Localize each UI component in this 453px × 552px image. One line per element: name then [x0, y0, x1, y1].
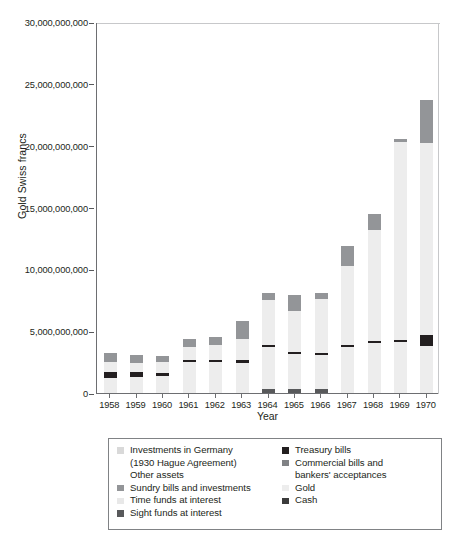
y-tick-label: 15,000,000,000: [25, 204, 88, 214]
legend-swatch-icon: [117, 485, 124, 492]
legend-item-label: Cash: [295, 494, 317, 505]
bar-1958: [104, 353, 117, 393]
x-tick-mark: [162, 394, 163, 398]
bar-segment: [209, 360, 222, 362]
bar-segment: [315, 299, 328, 353]
x-tick-mark: [294, 394, 295, 398]
bar-segment: [130, 363, 143, 372]
legend-item: Gold: [281, 482, 439, 495]
bar-1963: [236, 321, 249, 393]
bar-segment: [104, 353, 117, 362]
bar-segment: [368, 341, 381, 342]
bar-segment: [368, 214, 381, 230]
x-tick-label-1967: 1967: [337, 400, 357, 410]
bar-segment: [262, 345, 275, 347]
bar-segment: [183, 339, 196, 346]
legend-item-label: Sight funds at interest: [130, 507, 222, 518]
y-tick-label: 30,000,000,000: [25, 18, 88, 28]
bar-segment: [288, 352, 301, 354]
bar-segment: [288, 354, 301, 389]
bar-segment: [156, 376, 169, 393]
y-axis-ticks: 05,000,000,00010,000,000,00015,000,000,0…: [0, 0, 96, 430]
legend-item-label: Sundry bills and investments: [130, 482, 251, 493]
legend-item-label: Gold: [295, 482, 315, 493]
x-tick-label-1960: 1960: [152, 400, 172, 410]
legend-item-label: Other assets: [130, 469, 184, 480]
bar-segment: [288, 295, 301, 311]
x-tick-mark: [215, 394, 216, 398]
x-axis-label: Year: [96, 410, 439, 422]
x-tick-mark: [320, 394, 321, 398]
bar-segment: [368, 343, 381, 393]
x-tick-label-1963: 1963: [231, 400, 251, 410]
bar-segment: [209, 337, 222, 344]
plot-axes: [96, 23, 439, 394]
y-tick-label: 25,000,000,000: [25, 80, 88, 90]
chart-plot-area: Gold Swiss francs 05,000,000,00010,000,0…: [0, 0, 453, 430]
bar-segment: [104, 378, 117, 393]
legend-swatch-icon: [117, 510, 124, 517]
legend-item: Other assets: [116, 469, 281, 482]
x-tick-mark: [399, 394, 400, 398]
bar-1965: [288, 295, 301, 393]
legend-item-label: Investments in Germany: [130, 444, 233, 455]
x-tick-label-1958: 1958: [99, 400, 119, 410]
x-tick-label-1970: 1970: [416, 400, 436, 410]
bar-1968: [368, 214, 381, 393]
bar-segment: [209, 345, 222, 360]
bar-segment: [156, 362, 169, 373]
y-tick-mark: [89, 146, 94, 147]
bar-segment: [156, 373, 169, 375]
legend-item: Cash: [281, 494, 439, 507]
bar-1964: [262, 293, 275, 393]
y-tick-label: 0: [83, 389, 88, 399]
bar-1962: [209, 337, 222, 393]
x-tick-label-1964: 1964: [258, 400, 278, 410]
bar-segment: [315, 293, 328, 299]
legend-item: Commercial bills andbankers' acceptances: [281, 457, 439, 482]
bar-segment: [315, 389, 328, 393]
y-tick-mark: [89, 270, 94, 271]
bar-segment: [420, 346, 433, 393]
x-tick-label-1969: 1969: [389, 400, 409, 410]
x-tick-label-1966: 1966: [310, 400, 330, 410]
x-tick-mark: [241, 394, 242, 398]
bar-segment: [341, 246, 354, 266]
bar-segment: [368, 230, 381, 341]
legend-item-label-line2: (1930 Hague Agreement): [130, 457, 281, 470]
x-tick-mark: [136, 394, 137, 398]
legend-item-label: Commercial bills and: [295, 457, 383, 468]
bar-segment: [104, 372, 117, 378]
legend-swatch-icon: [282, 485, 289, 492]
bar-segment: [236, 360, 249, 362]
bar-segment: [394, 142, 407, 340]
bar-segment: [341, 266, 354, 345]
y-tick-mark: [89, 332, 94, 333]
bar-1961: [183, 339, 196, 393]
bar-segment: [156, 356, 169, 362]
bar-segment: [262, 300, 275, 345]
legend-swatch-icon: [117, 498, 124, 505]
bar-segment: [420, 143, 433, 335]
y-tick-mark: [89, 84, 94, 85]
y-tick-mark: [89, 394, 94, 395]
legend-item: Sundry bills and investments: [116, 482, 281, 495]
bar-segment: [104, 362, 117, 372]
legend-item: Sight funds at interest: [116, 507, 281, 520]
x-tick-mark: [373, 394, 374, 398]
bar-segment: [130, 377, 143, 393]
legend-swatch-icon: [117, 447, 124, 454]
figure-caption: [22, 540, 442, 552]
bar-1970: [420, 100, 433, 393]
legend-item-label-line2: bankers' acceptances: [295, 469, 439, 482]
legend-swatch-icon: [282, 447, 289, 454]
y-tick-mark: [89, 23, 94, 24]
legend-item: Time funds at interest: [116, 494, 281, 507]
x-tick-mark: [347, 394, 348, 398]
bar-segment: [236, 363, 249, 393]
bar-segment: [183, 347, 196, 361]
bar-segment: [262, 293, 275, 300]
bar-segment: [341, 345, 354, 346]
y-tick-mark: [89, 208, 94, 209]
x-tick-label-1968: 1968: [363, 400, 383, 410]
